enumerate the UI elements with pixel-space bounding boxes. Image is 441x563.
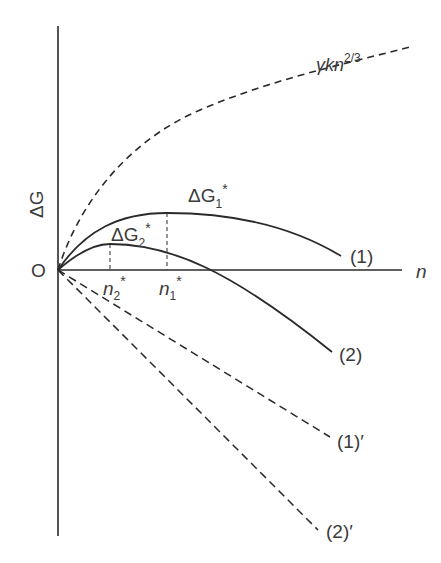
origin-label: O	[31, 260, 46, 281]
surface-curve-label: γkn2/3	[316, 51, 361, 75]
y-axis-label: ΔG	[26, 191, 47, 218]
n2-star-label: n2*	[103, 273, 126, 303]
curve-2-label: (2)	[339, 344, 362, 365]
line-1-prime-label: (1)′	[337, 431, 364, 452]
nucleation-free-energy-diagram: ΔG O n γkn2/3 ΔG1* ΔG2* n2* n1* (1) (2) …	[0, 0, 441, 563]
delta-g1-star-label: ΔG1*	[188, 181, 228, 211]
curve-2	[58, 244, 332, 352]
curve-1	[58, 213, 341, 270]
n1-star-label: n1*	[159, 273, 182, 303]
line-2-prime-label: (2)′	[326, 521, 353, 542]
line-2-prime	[58, 270, 318, 530]
curve-1-label: (1)	[350, 246, 373, 267]
x-axis-label: n	[416, 261, 427, 282]
line-1-prime	[58, 270, 330, 437]
